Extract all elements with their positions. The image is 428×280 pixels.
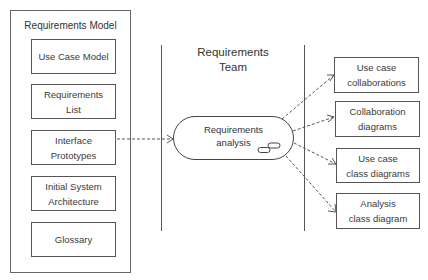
output-arrowhead-icon-4 <box>328 204 336 212</box>
output-arrow-line-1 <box>282 75 334 119</box>
flow-arrows <box>0 0 428 280</box>
output-arrowhead-icon-3 <box>328 158 336 164</box>
output-arrow-line-3 <box>294 143 336 164</box>
output-arrowhead-icon-2 <box>327 115 334 122</box>
output-arrow-line-2 <box>293 117 334 131</box>
